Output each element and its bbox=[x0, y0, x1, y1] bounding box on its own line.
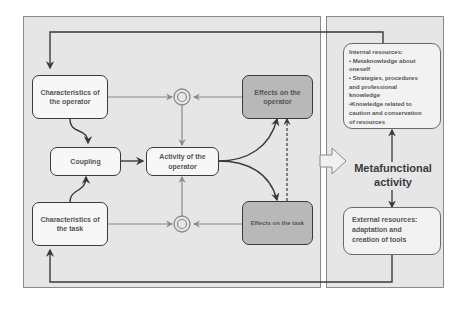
node-characteristics-task: Characteristics of the task bbox=[32, 202, 108, 246]
node-effects-task: Effects on the task bbox=[242, 201, 313, 245]
external-resources-box: External resources: adaptation and creat… bbox=[343, 207, 441, 255]
node-coupling: Coupling bbox=[50, 147, 121, 176]
node-effects-operator: Effects on the operator bbox=[242, 75, 313, 119]
node-characteristics-operator: Characteristics of the operator bbox=[32, 75, 108, 119]
metafunctional-activity-label: Metafunctional activity bbox=[348, 161, 438, 190]
internal-resources-box: Internal resources: • Metaknowledge abou… bbox=[343, 43, 441, 129]
node-activity-operator: Activity of the operator bbox=[146, 147, 219, 176]
